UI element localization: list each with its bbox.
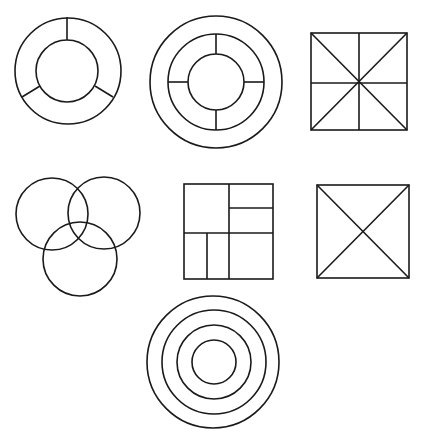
square-with-x <box>317 185 409 278</box>
figure-canvas <box>0 0 422 443</box>
triple-ring-four-segments <box>150 16 282 148</box>
square-eight-sections <box>311 33 407 130</box>
square-subdivided-grid <box>184 184 273 279</box>
concentric-circles <box>147 296 279 428</box>
ring-three-segments <box>15 17 121 124</box>
three-circle-venn <box>16 177 140 296</box>
